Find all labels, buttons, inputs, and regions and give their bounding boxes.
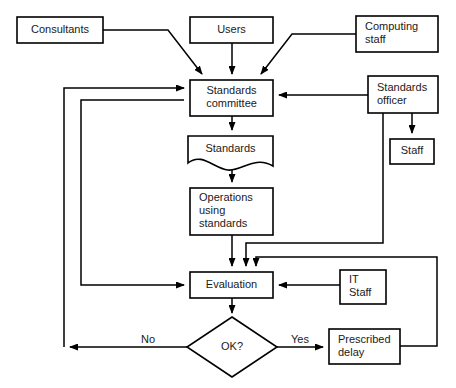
node-staff[interactable]: Staff bbox=[390, 139, 434, 164]
node-label-standards-committee: committee bbox=[206, 97, 257, 109]
node-consultants[interactable]: Consultants bbox=[17, 17, 103, 43]
edge-computing-staff-to-committee bbox=[261, 34, 356, 74]
node-label-evaluation: Evaluation bbox=[206, 278, 257, 290]
edge-left-bus-outer-to-committee bbox=[64, 88, 184, 347]
node-label-operations-using-standards: Operations bbox=[199, 191, 253, 203]
node-label-it-staff: IT bbox=[349, 273, 359, 285]
node-operations-using-standards[interactable]: Operationsusingstandards bbox=[190, 188, 273, 235]
node-label-it-staff: Staff bbox=[349, 286, 372, 298]
node-label-consultants: Consultants bbox=[31, 23, 90, 35]
node-standards-committee[interactable]: Standardscommittee bbox=[190, 80, 273, 116]
node-label-standards-document: Standards bbox=[205, 142, 256, 154]
nodes-layer: ConsultantsUsersComputingstaffStandardsc… bbox=[17, 16, 438, 377]
node-label-computing-staff: Computing bbox=[365, 20, 418, 32]
node-it-staff[interactable]: ITStaff bbox=[340, 270, 386, 304]
node-evaluation[interactable]: Evaluation bbox=[190, 272, 273, 298]
node-standards-document[interactable]: Standards bbox=[188, 136, 273, 170]
flowchart-diagram: ConsultantsUsersComputingstaffStandardsc… bbox=[0, 0, 456, 388]
node-ok-decision[interactable]: OK? bbox=[187, 317, 277, 377]
node-standards-officer[interactable]: Standardsofficer bbox=[368, 76, 438, 113]
node-computing-staff[interactable]: Computingstaff bbox=[356, 16, 438, 52]
node-label-standards-officer: officer bbox=[377, 94, 407, 106]
node-label-operations-using-standards: using bbox=[199, 204, 225, 216]
node-label-computing-staff: staff bbox=[365, 33, 387, 45]
node-label-prescribed-delay: delay bbox=[338, 346, 365, 358]
node-prescribed-delay[interactable]: Prescribeddelay bbox=[329, 329, 400, 364]
edge-label-no-label: No bbox=[141, 333, 155, 345]
node-label-prescribed-delay: Prescribed bbox=[338, 333, 391, 345]
node-label-users: Users bbox=[217, 23, 246, 35]
node-label-ok-decision: OK? bbox=[221, 340, 243, 352]
flowchart-canvas: ConsultantsUsersComputingstaffStandardsc… bbox=[0, 0, 456, 388]
node-label-staff: Staff bbox=[401, 144, 424, 156]
node-label-standards-officer: Standards bbox=[377, 81, 428, 93]
edge-label-yes-label: Yes bbox=[291, 333, 309, 345]
node-label-standards-committee: Standards bbox=[206, 84, 257, 96]
node-label-operations-using-standards: standards bbox=[199, 217, 248, 229]
node-users[interactable]: Users bbox=[190, 17, 273, 43]
edge-left-bus-inner-to-evaluation bbox=[81, 100, 184, 285]
edge-consultants-to-committee bbox=[103, 30, 202, 74]
